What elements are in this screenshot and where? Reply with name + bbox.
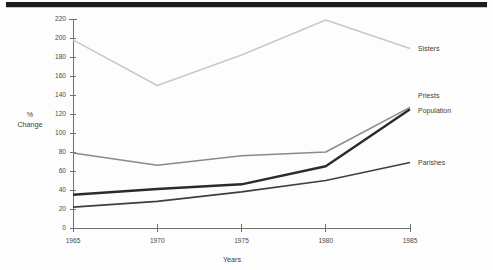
- y-tick-label: 120: [55, 110, 66, 117]
- chart-container: 020406080100120140160180200220 196519701…: [0, 0, 493, 270]
- series-label-population: Population: [418, 107, 451, 115]
- line-chart: 020406080100120140160180200220 196519701…: [0, 0, 493, 270]
- y-tick-label: 60: [59, 167, 67, 174]
- x-axis: 19651970197519801985: [66, 224, 418, 244]
- series-label-priests: Priests: [418, 92, 440, 99]
- y-tick-label: 180: [55, 53, 66, 60]
- y-tick-label: 20: [59, 205, 67, 212]
- y-axis-title-line1: %: [27, 110, 34, 119]
- y-tick-label: 140: [55, 91, 66, 98]
- chart-page: 020406080100120140160180200220 196519701…: [0, 0, 493, 270]
- x-tick-label: 1970: [150, 237, 165, 244]
- series-line-population: [73, 107, 410, 165]
- series-lines: [73, 20, 410, 207]
- y-axis-title-line2: Change: [17, 120, 42, 129]
- series-line-sisters: [73, 20, 410, 86]
- x-axis-title: Years: [223, 255, 242, 264]
- series-line-priests: [73, 109, 410, 195]
- x-tick-label: 1975: [234, 237, 249, 244]
- x-tick-label: 1965: [66, 237, 81, 244]
- y-tick-label: 40: [59, 186, 67, 193]
- series-label-parishes: Parishes: [418, 159, 446, 166]
- y-tick-label: 0: [62, 224, 66, 231]
- y-axis: 020406080100120140160180200220: [55, 15, 77, 231]
- y-tick-label: 100: [55, 129, 66, 136]
- y-tick-label: 160: [55, 72, 66, 79]
- y-tick-label: 80: [59, 148, 67, 155]
- x-tick-label: 1985: [403, 237, 418, 244]
- x-tick-label: 1980: [318, 237, 333, 244]
- y-tick-label: 220: [55, 15, 66, 22]
- series-label-sisters: Sisters: [418, 45, 440, 52]
- y-tick-label: 200: [55, 34, 66, 41]
- series-labels: SistersPriestsPopulationParishes: [418, 45, 451, 166]
